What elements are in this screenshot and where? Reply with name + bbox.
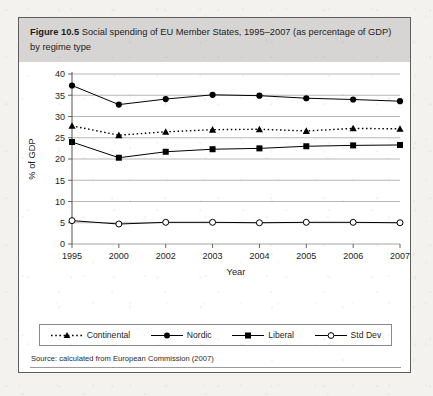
x-axis-tick-label: 1995 xyxy=(62,251,82,261)
data-point xyxy=(350,96,356,102)
x-axis-title: Year xyxy=(227,267,246,277)
legend-label-continental: Continental xyxy=(87,330,130,340)
data-point xyxy=(303,219,309,225)
data-point xyxy=(396,125,403,132)
x-axis-tick-label: 2005 xyxy=(296,251,316,261)
figure-number: Figure 10.5 xyxy=(30,27,79,37)
y-axis-tick-label: 5 xyxy=(60,218,65,228)
data-point xyxy=(69,218,75,224)
data-point xyxy=(116,221,122,227)
legend-item-continental: Continental xyxy=(50,330,130,341)
figure-source: Source: calculated from European Commiss… xyxy=(31,354,214,363)
data-point xyxy=(350,219,356,225)
figure-divider xyxy=(30,367,401,368)
legend-label-liberal: Liberal xyxy=(268,330,294,340)
legend-swatch-nordic-icon xyxy=(150,330,184,341)
x-axis-tick-label: 2002 xyxy=(156,251,176,261)
data-point xyxy=(256,126,263,133)
legend-item-std-dev: Std Dev xyxy=(314,330,382,341)
figure-caption: Figure 10.5 Social spending of EU Member… xyxy=(30,25,399,54)
data-point xyxy=(163,149,169,155)
figure-container: Figure 10.5 Social spending of EU Member… xyxy=(18,17,411,373)
y-axis-tick-label: 0 xyxy=(60,239,65,249)
y-axis-title: % of GDP xyxy=(27,138,37,179)
data-point xyxy=(163,96,169,102)
data-point xyxy=(209,92,215,98)
data-point xyxy=(162,128,169,135)
legend-item-nordic: Nordic xyxy=(150,330,212,341)
y-axis-tick-label: 35 xyxy=(55,91,65,101)
data-point xyxy=(397,220,403,226)
data-point xyxy=(397,98,403,104)
legend-swatch-liberal-icon xyxy=(231,330,265,341)
line-chart: 0510152025303540199520002002200320042005… xyxy=(19,62,410,303)
x-axis-tick-label: 2007 xyxy=(390,251,410,261)
data-point xyxy=(397,142,403,148)
y-axis-tick-label: 15 xyxy=(55,176,65,186)
data-point xyxy=(303,95,309,101)
y-axis-tick-label: 20 xyxy=(55,154,65,164)
legend-swatch-continental-icon xyxy=(50,330,84,341)
data-point xyxy=(116,102,122,108)
y-axis-tick-label: 40 xyxy=(55,69,65,79)
data-point xyxy=(256,93,262,99)
x-axis-tick-label: 2004 xyxy=(249,251,269,261)
data-point xyxy=(69,82,75,88)
y-axis-tick-label: 30 xyxy=(55,112,65,122)
y-axis-tick-label: 10 xyxy=(55,197,65,207)
x-axis-tick-label: 2006 xyxy=(343,251,363,261)
x-axis-tick-label: 2003 xyxy=(203,251,223,261)
data-point xyxy=(68,122,75,129)
data-point xyxy=(256,145,262,151)
chart-legend: Continental Nordic Liberal Std Dev xyxy=(39,324,392,346)
data-point xyxy=(350,142,356,148)
legend-item-liberal: Liberal xyxy=(231,330,294,341)
data-point xyxy=(163,219,169,225)
data-point xyxy=(69,139,75,145)
legend-swatch-std-dev-icon xyxy=(314,330,348,341)
legend-label-std-dev: Std Dev xyxy=(351,330,382,340)
data-point xyxy=(116,155,122,161)
data-point xyxy=(210,146,216,152)
data-point xyxy=(210,219,216,225)
figure-caption-band: Figure 10.5 Social spending of EU Member… xyxy=(19,18,410,62)
x-axis-tick-label: 2000 xyxy=(109,251,129,261)
data-point xyxy=(256,220,262,226)
legend-label-nordic: Nordic xyxy=(187,330,212,340)
chart-plot-area: 0510152025303540199520002002200320042005… xyxy=(19,62,410,303)
y-axis-tick-label: 25 xyxy=(55,133,65,143)
data-point xyxy=(303,143,309,149)
figure-caption-text: Social spending of EU Member States, 199… xyxy=(30,27,391,52)
